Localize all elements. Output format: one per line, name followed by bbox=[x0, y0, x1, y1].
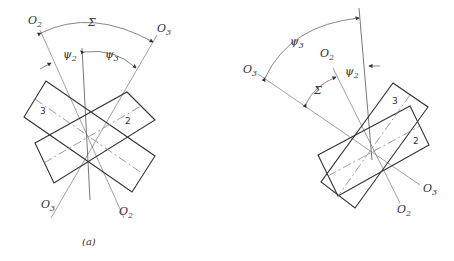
label-o2-bottom-b: O2 bbox=[397, 203, 411, 218]
figure-b: ψ3 O2 ψ2 O3 Σ 3 2 O3 O2 bbox=[243, 8, 437, 218]
o3-axis-b bbox=[258, 74, 420, 185]
gear-3-label-b: 3 bbox=[392, 96, 398, 106]
label-psi2-a: ψ2 bbox=[63, 48, 77, 63]
gear-3-label-a: 3 bbox=[40, 106, 46, 116]
figure-caption-a: (a) bbox=[82, 236, 96, 247]
reference-line-b bbox=[359, 8, 372, 160]
gear-2-centerline-a bbox=[44, 106, 141, 163]
sigma-arc-a bbox=[41, 22, 153, 42]
label-o2-bottom-a: O2 bbox=[119, 205, 133, 220]
figure-a: O2 Σ O3 ψ2 ψ3 3 2 O3 O2 (a) bbox=[24, 14, 171, 247]
o2-axis-b bbox=[333, 68, 400, 203]
label-o2-top-a: O2 bbox=[28, 14, 42, 29]
crossed-helical-gears-figure: O2 Σ O3 ψ2 ψ3 3 2 O3 O2 (a) ψ3 O2 ψ2 bbox=[0, 0, 454, 261]
gear-2-label-b: 2 bbox=[413, 136, 419, 146]
label-o3-top-a: O3 bbox=[157, 22, 171, 37]
label-o3-right-b: O3 bbox=[423, 182, 437, 197]
label-sigma-b: Σ bbox=[313, 84, 322, 97]
o3-axis-a bbox=[51, 35, 157, 218]
label-o3-left-b: O3 bbox=[243, 63, 257, 78]
gear-2-label-a: 2 bbox=[125, 116, 131, 126]
label-psi3-b: ψ3 bbox=[290, 35, 304, 50]
label-o2-top-b: O2 bbox=[320, 47, 334, 62]
label-psi3-a: ψ3 bbox=[105, 48, 119, 63]
gear-2-centerline-b bbox=[328, 126, 420, 176]
label-psi2-b: ψ2 bbox=[345, 65, 359, 80]
gear-3-outline-b bbox=[321, 83, 428, 208]
reference-line-a bbox=[82, 48, 90, 200]
label-sigma-a: Σ bbox=[87, 16, 96, 29]
psi2-arrow-a bbox=[40, 63, 51, 69]
label-o3-bottom-a: O3 bbox=[41, 198, 55, 213]
